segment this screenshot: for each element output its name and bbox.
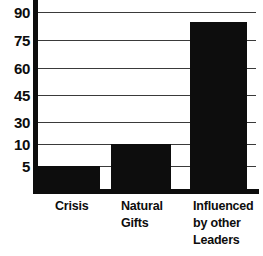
bar-chart: 90 75 60 45 30 10 5 Crisis Natural Gifts… xyxy=(0,0,263,256)
category-label-influenced-by-other-leaders: Influenced by other Leaders xyxy=(193,198,254,249)
y-axis xyxy=(33,0,38,194)
category-label-natural-gifts: Natural Gifts xyxy=(121,198,163,232)
bar-crisis xyxy=(38,166,100,189)
bar-influenced-by-other-leaders xyxy=(190,22,247,189)
bar-natural-gifts xyxy=(111,144,171,189)
y-tick-label-90: 90 xyxy=(2,5,30,20)
y-tick-label-30: 30 xyxy=(2,115,30,130)
y-tick-label-45: 45 xyxy=(2,88,30,103)
x-axis xyxy=(33,189,259,194)
category-axis-labels: Crisis Natural Gifts Influenced by other… xyxy=(33,198,263,256)
gridline-90 xyxy=(33,12,256,13)
y-tick-label-75: 75 xyxy=(2,33,30,48)
category-label-crisis: Crisis xyxy=(55,198,89,215)
y-tick-label-10: 10 xyxy=(2,137,30,152)
y-tick-label-5: 5 xyxy=(2,159,30,174)
plot-area xyxy=(33,0,257,194)
y-tick-label-60: 60 xyxy=(2,61,30,76)
